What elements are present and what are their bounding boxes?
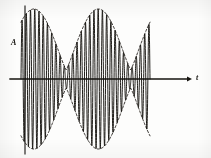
time-axis-label: t — [196, 74, 198, 82]
waveform-figure: A t — [0, 0, 211, 158]
waveform-canvas — [0, 0, 211, 158]
amplitude-axis-label: A — [11, 39, 16, 47]
upper-envelope-curve — [21, 9, 150, 70]
time-axis-arrowhead — [187, 77, 192, 82]
